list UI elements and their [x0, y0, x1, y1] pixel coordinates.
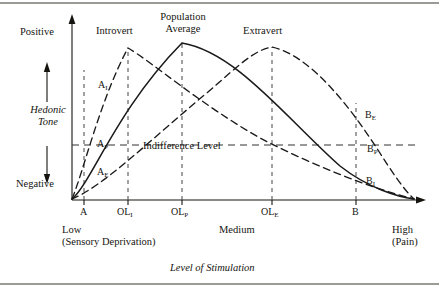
- x-axis-low-region-label: Low (Sensory Deprivation): [62, 224, 156, 249]
- x-tick-label-OLP: OLP: [171, 207, 188, 218]
- segment-label-A-extravert: AE: [97, 167, 109, 178]
- segment-label-B-population: BP: [367, 144, 378, 155]
- curve-introvert: [72, 48, 414, 199]
- x-tick-label-OLI-base: OL: [117, 206, 130, 217]
- y-axis-positive-label: Positive: [20, 26, 54, 37]
- hedonic-tone-figure: Positive Negative Hedonic Tone Introvert…: [0, 0, 439, 286]
- segment-label-B-introvert-sub: I: [373, 180, 375, 188]
- segment-label-B-introvert-base: B: [366, 175, 373, 186]
- x-tick-marks-group: [84, 200, 356, 205]
- x-tick-label-B: B: [352, 207, 359, 218]
- x-tick-label-OLE: OLE: [261, 207, 279, 218]
- segment-label-B-introvert: BI: [366, 176, 375, 187]
- x-axis-low-region-line2: (Sensory Deprivation): [62, 236, 156, 248]
- x-tick-label-OLE-base: OL: [261, 206, 274, 217]
- segment-label-B-extravert-base: B: [365, 109, 372, 120]
- segment-label-B-population-base: B: [367, 143, 374, 154]
- curve-label-population-average-line2: Average: [144, 23, 222, 35]
- segment-label-A-introvert: AI: [98, 80, 108, 91]
- segment-label-B-extravert: BE: [365, 110, 376, 121]
- vertical-guides-group: [84, 43, 356, 200]
- x-axis-high-region-label: High (Pain): [392, 224, 438, 249]
- x-axis-medium-region-label: Medium: [219, 224, 255, 235]
- curve-extravert: [72, 47, 414, 199]
- y-axis-title-line2: Tone: [14, 116, 82, 128]
- y-axis-title: Hedonic Tone: [14, 104, 82, 129]
- x-axis-high-region-line1: High: [392, 224, 438, 236]
- x-tick-label-OLI: OLI: [117, 207, 133, 218]
- x-tick-label-A: A: [80, 207, 87, 218]
- curve-label-population-average-line1: Population: [144, 11, 222, 23]
- segment-label-A-population-sub: P: [104, 143, 108, 151]
- curve-population-average: [72, 43, 414, 199]
- segment-label-A-extravert-sub: E: [104, 171, 108, 179]
- curve-label-extravert: Extravert: [243, 25, 282, 36]
- segment-label-A-population: AP: [97, 139, 108, 150]
- segment-label-A-introvert-sub: I: [105, 84, 107, 92]
- x-tick-label-OLI-sub: I: [130, 211, 132, 219]
- segment-label-B-population-sub: P: [374, 148, 378, 156]
- y-axis-title-line1: Hedonic: [14, 104, 82, 116]
- segment-label-B-extravert-sub: E: [372, 114, 376, 122]
- x-tick-label-B-base: B: [352, 206, 359, 217]
- figure-caption: Level of Stimulation: [170, 262, 255, 273]
- y-axis-arrowhead: [69, 14, 76, 24]
- curve-label-population-average: Population Average: [144, 11, 222, 36]
- x-tick-label-OLE-sub: E: [274, 211, 278, 219]
- x-axis-arrowhead: [416, 197, 426, 204]
- x-tick-label-OLP-base: OL: [171, 206, 184, 217]
- x-axis-low-region-line1: Low: [62, 224, 156, 236]
- curve-label-introvert: Introvert: [96, 25, 133, 36]
- indifference-level-label: Indifference Level: [143, 140, 221, 151]
- x-tick-label-OLP-sub: P: [184, 211, 188, 219]
- x-axis-high-region-line2: (Pain): [392, 236, 438, 248]
- x-tick-label-A-base: A: [80, 206, 87, 217]
